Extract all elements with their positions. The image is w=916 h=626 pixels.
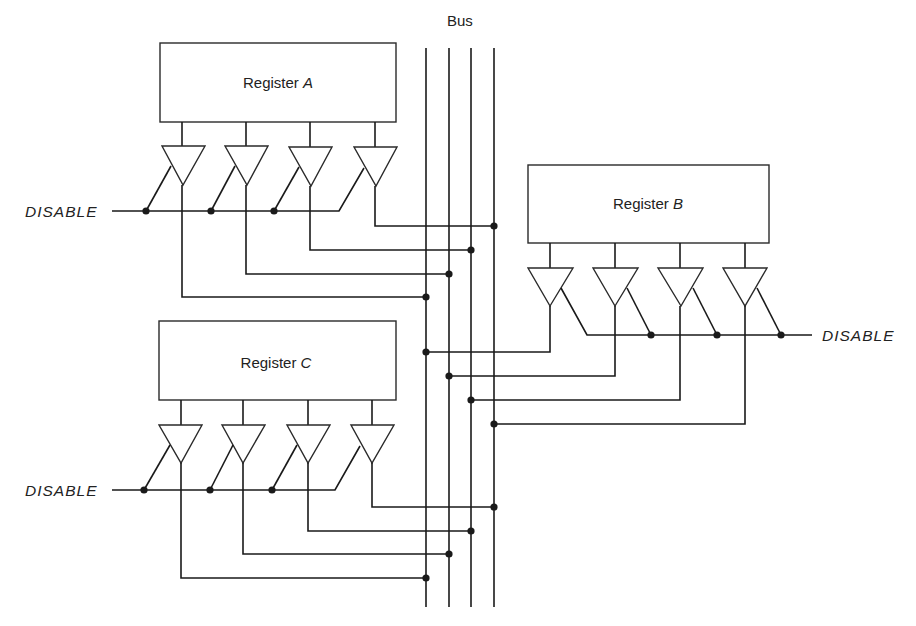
buffer-b3-icon (723, 268, 767, 306)
register-c-label: Register C (241, 354, 312, 371)
buffer-c3-icon (351, 425, 394, 463)
buffer-b1-icon (593, 268, 638, 306)
register-b-label: Register B (613, 195, 683, 212)
buffer-a2-icon (289, 147, 332, 186)
buffer-b2-icon (658, 268, 703, 306)
buffer-a0-icon (162, 146, 205, 185)
buffer-c1-icon (222, 425, 265, 463)
buffer-c0-icon (159, 425, 202, 463)
register-a-label: Register A (243, 74, 313, 91)
disable-label-a: DISABLE (25, 203, 97, 220)
bus-lines (426, 48, 494, 607)
buffer-a3-icon (354, 147, 397, 186)
bus-label: Bus (447, 12, 473, 29)
disable-line-c (112, 446, 360, 490)
disable-label-c: DISABLE (25, 482, 97, 499)
bus-diagram: Bus Register A DISABLE (0, 0, 916, 626)
buffer-c2-icon (287, 425, 330, 463)
buffer-b0-icon (528, 268, 573, 306)
disable-label-b: DISABLE (822, 327, 894, 344)
buffer-a1-icon (225, 146, 268, 185)
